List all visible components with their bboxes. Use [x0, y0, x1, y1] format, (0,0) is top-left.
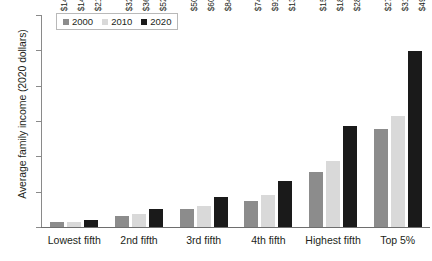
bar-group-bars: $156,919$187,120$286,391 — [301, 15, 366, 227]
bar-value-label: $286,391 — [353, 0, 361, 11]
bar-column: $21,260 — [84, 15, 98, 227]
bar-column: $312,876 — [391, 15, 405, 227]
bar-2010[interactable]: $187,120 — [326, 161, 340, 227]
bar-chart: Average family income (2020 dollars) 200… — [0, 0, 432, 261]
bar-group: $156,919$187,120$286,391 — [301, 15, 366, 227]
bar-group: $74,791$91,786$130,147 — [236, 15, 301, 227]
bar-column: $14,923 — [67, 15, 81, 227]
bar-value-label: $84,681 — [223, 0, 231, 11]
bar-2020[interactable]: $21,260 — [84, 220, 98, 228]
bar-value-label: $36,911 — [142, 0, 150, 11]
y-axis-tick — [36, 50, 41, 51]
x-axis-label: 3rd fifth — [171, 234, 236, 246]
bar-2010[interactable]: $312,876 — [391, 116, 405, 227]
bar-2000[interactable]: $156,919 — [309, 172, 323, 227]
bar-2000[interactable]: $14,122 — [50, 222, 64, 227]
x-axis-line — [41, 227, 430, 228]
bar-value-label: $60,161 — [206, 0, 214, 11]
bar-2010[interactable]: $14,923 — [67, 222, 81, 227]
y-axis-tick — [36, 121, 41, 122]
bar-column: $84,681 — [214, 15, 228, 227]
x-axis-label: 4th fifth — [236, 234, 301, 246]
bar-column: $278,063 — [374, 15, 388, 227]
bar-2020[interactable]: $52,332 — [149, 209, 163, 227]
bar-column: $156,919 — [309, 15, 323, 227]
x-axis-label: Top 5% — [365, 234, 430, 246]
bar-column: $286,391 — [343, 15, 357, 227]
bar-column: $60,161 — [197, 15, 211, 227]
bar-column: $50,747 — [180, 15, 194, 227]
x-axis-label: Lowest fifth — [42, 234, 107, 246]
bar-2000[interactable]: $74,791 — [244, 201, 258, 227]
bar-value-label: $497,661 — [417, 0, 425, 11]
bar-2010[interactable]: $91,786 — [261, 195, 275, 227]
bar-value-label: $52,332 — [159, 0, 167, 11]
y-axis-tick — [36, 192, 41, 193]
bar-value-label: $14,122 — [60, 0, 68, 11]
y-axis-tick — [36, 156, 41, 157]
bar-group: $14,122$14,923$21,260 — [42, 15, 107, 227]
bar-column: $74,791 — [244, 15, 258, 227]
bar-group: $278,063$312,876$497,661 — [365, 15, 430, 227]
x-axis-category-labels: Lowest fifth2nd fifth3rd fifth4th fifthH… — [42, 234, 430, 246]
bar-column: $497,661 — [408, 15, 422, 227]
y-axis-tick — [36, 86, 41, 87]
bar-value-label: $312,876 — [400, 0, 408, 11]
bar-value-label: $32,289 — [125, 0, 133, 11]
bar-column: $52,332 — [149, 15, 163, 227]
bar-group-bars: $32,289$36,911$52,332 — [107, 15, 172, 227]
bar-column: $14,122 — [50, 15, 64, 227]
bar-group: $32,289$36,911$52,332 — [107, 15, 172, 227]
bar-2000[interactable]: $50,747 — [180, 209, 194, 227]
y-axis-tick — [36, 227, 41, 228]
bar-groups: $14,122$14,923$21,260$32,289$36,911$52,3… — [42, 15, 430, 227]
bar-2020[interactable]: $286,391 — [343, 126, 357, 227]
bar-group-bars: $50,747$60,161$84,681 — [171, 15, 236, 227]
bar-column: $187,120 — [326, 15, 340, 227]
bar-value-label: $14,923 — [77, 0, 85, 11]
bar-column: $91,786 — [261, 15, 275, 227]
y-axis-tick — [36, 15, 41, 16]
bar-value-label: $91,786 — [271, 0, 279, 11]
bar-column: $32,289 — [115, 15, 129, 227]
bar-column: $130,147 — [278, 15, 292, 227]
bar-group-bars: $74,791$91,786$130,147 — [236, 15, 301, 227]
bar-2020[interactable]: $497,661 — [408, 51, 422, 227]
y-axis-title: Average family income (2020 dollars) — [16, 7, 28, 222]
bar-2020[interactable]: $130,147 — [278, 181, 292, 227]
bar-group: $50,747$60,161$84,681 — [171, 15, 236, 227]
bar-2010[interactable]: $36,911 — [132, 214, 146, 227]
x-axis-label: Highest fifth — [301, 234, 366, 246]
bar-2020[interactable]: $84,681 — [214, 197, 228, 227]
bar-value-label: $21,260 — [94, 0, 102, 11]
x-axis-label: 2nd fifth — [107, 234, 172, 246]
bar-value-label: $278,063 — [383, 0, 391, 11]
bar-value-label: $50,747 — [189, 0, 197, 11]
bar-2000[interactable]: $278,063 — [374, 129, 388, 227]
bar-value-label: $156,919 — [319, 0, 327, 11]
bar-group-bars: $14,122$14,923$21,260 — [42, 15, 107, 227]
bar-value-label: $130,147 — [288, 0, 296, 11]
bar-2010[interactable]: $60,161 — [197, 206, 211, 227]
bar-2000[interactable]: $32,289 — [115, 216, 129, 227]
bar-column: $36,911 — [132, 15, 146, 227]
bar-value-label: $74,791 — [254, 0, 262, 11]
bar-group-bars: $278,063$312,876$497,661 — [365, 15, 430, 227]
bar-value-label: $187,120 — [336, 0, 344, 11]
